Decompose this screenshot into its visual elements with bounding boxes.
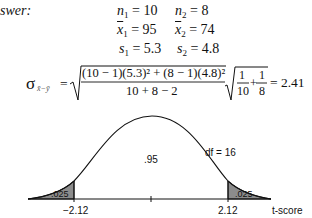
left-tail-label: .025 xyxy=(51,189,69,199)
left-critical-value: −2.12 xyxy=(63,205,88,216)
right-tail-label: .025 xyxy=(235,189,253,199)
t-distribution-chart xyxy=(0,0,312,218)
x-axis-label: t-score xyxy=(272,205,303,216)
center-area-label: .95 xyxy=(144,154,158,165)
df-label: df = 16 xyxy=(205,147,236,158)
right-critical-value: 2.12 xyxy=(218,205,237,216)
